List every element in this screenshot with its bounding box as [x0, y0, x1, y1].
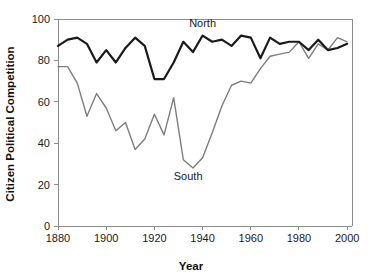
series-annotations: NorthSouth — [174, 17, 216, 182]
x-axis-title: Year — [179, 260, 204, 272]
x-tick-label: 1920 — [142, 232, 166, 244]
x-axis-tick-labels: 1880190019201940196019802000 — [46, 232, 360, 244]
x-axis-ticks — [58, 226, 347, 230]
y-axis-title: Citizen Political Competition — [4, 46, 16, 201]
line-chart-svg: 1880190019201940196019802000 02040608010… — [0, 0, 383, 278]
y-tick-label: 80 — [38, 54, 50, 66]
y-tick-label: 100 — [32, 13, 50, 25]
x-tick-label: 1960 — [239, 232, 263, 244]
y-tick-label: 40 — [38, 137, 50, 149]
series-line-north — [58, 36, 347, 79]
x-tick-label: 1980 — [287, 232, 311, 244]
x-tick-label: 2000 — [335, 232, 359, 244]
y-tick-label: 60 — [38, 96, 50, 108]
x-tick-label: 1900 — [94, 232, 118, 244]
y-tick-label: 0 — [44, 220, 50, 232]
y-axis-ticks — [54, 19, 58, 226]
x-tick-label: 1940 — [190, 232, 214, 244]
y-tick-label: 20 — [38, 179, 50, 191]
x-tick-label: 1880 — [46, 232, 70, 244]
y-axis-tick-labels: 020406080100 — [32, 13, 50, 232]
series-label-south: South — [174, 170, 203, 182]
data-series-group — [58, 36, 347, 168]
series-label-north: North — [189, 17, 216, 29]
chart-container: 1880190019201940196019802000 02040608010… — [0, 0, 383, 278]
